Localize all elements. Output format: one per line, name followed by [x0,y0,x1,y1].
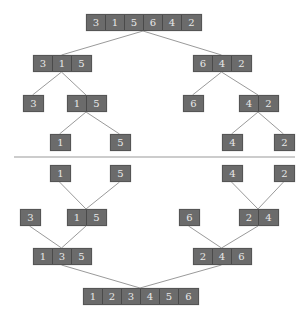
array-cell: 1 [106,15,125,30]
array-cell: 6 [232,249,251,264]
array-node: 123456 [83,288,199,305]
array-cell: 6 [184,96,203,111]
tree-edge [60,112,87,134]
array-cell: 3 [87,15,106,30]
array-node: 6 [179,209,200,226]
array-cell: 4 [223,166,242,181]
array-cell: 2 [275,166,294,181]
array-node: 5 [110,134,131,151]
tree-edge [143,31,222,55]
array-cell: 5 [125,15,144,30]
array-cell: 1 [84,289,103,304]
array-node: 4 [222,165,243,182]
array-cell: 1 [68,96,87,111]
array-node: 24 [239,209,279,226]
array-cell: 1 [68,210,87,225]
array-node: 642 [193,55,252,72]
tree-edge [140,265,222,288]
tree-edge [60,182,87,209]
array-cell: 6 [179,289,198,304]
array-cell: 6 [194,56,213,71]
tree-edge [258,112,284,134]
array-cell: 5 [111,135,130,150]
array-node: 246 [193,248,252,265]
tree-edge [189,226,222,248]
tree-edge [232,182,259,209]
array-cell: 5 [87,210,106,225]
array-node: 2 [274,134,295,151]
tree-edge [193,72,222,95]
array-node: 6 [183,95,204,112]
array-cell: 2 [259,96,278,111]
array-cell: 4 [213,56,232,71]
array-cell: 5 [72,249,91,264]
tree-edge [30,226,62,248]
array-cell: 3 [122,289,141,304]
array-cell: 4 [163,15,182,30]
array-cell: 2 [103,289,122,304]
array-cell: 4 [240,96,259,111]
array-cell: 5 [111,166,130,181]
array-cell: 6 [144,15,163,30]
array-cell: 5 [87,96,106,111]
array-cell: 1 [51,135,70,150]
array-cell: 1 [34,249,53,264]
tree-edge [222,72,259,95]
array-cell: 5 [160,289,179,304]
array-cell: 3 [53,249,72,264]
array-cell: 4 [223,135,242,150]
array-cell: 3 [34,56,53,71]
array-node: 1 [50,165,71,182]
array-node: 42 [239,95,279,112]
array-node: 1 [50,134,71,151]
array-cell: 3 [24,96,43,111]
array-cell: 2 [182,15,201,30]
edge-layer [0,0,307,320]
array-node: 3 [20,209,41,226]
array-cell: 2 [240,210,259,225]
array-node: 5 [110,165,131,182]
tree-edge [62,72,87,95]
array-cell: 3 [21,210,40,225]
tree-edge [222,226,259,248]
array-cell: 2 [194,249,213,264]
array-node: 2 [274,165,295,182]
merge-sort-diagram: 3156423156423156421542154231562413524612… [0,0,307,320]
array-cell: 1 [51,166,70,181]
array-cell: 2 [232,56,251,71]
tree-edge [33,72,62,95]
array-cell: 2 [275,135,294,150]
array-node: 315642 [86,14,202,31]
array-node: 3 [23,95,44,112]
array-node: 135 [33,248,92,265]
array-cell: 4 [213,249,232,264]
array-cell: 4 [259,210,278,225]
array-node: 4 [222,134,243,151]
tree-edge [86,182,120,209]
tree-edge [62,31,144,55]
tree-edge [62,226,87,248]
array-node: 15 [67,209,107,226]
array-node: 15 [67,95,107,112]
tree-edge [232,112,259,134]
array-cell: 1 [53,56,72,71]
array-node: 315 [33,55,92,72]
tree-edge [62,265,141,288]
tree-edge [258,182,284,209]
array-cell: 5 [72,56,91,71]
array-cell: 6 [180,210,199,225]
array-cell: 4 [141,289,160,304]
tree-edge [86,112,120,134]
